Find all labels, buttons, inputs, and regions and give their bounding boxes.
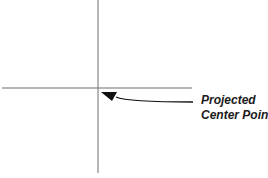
projected-center-point-label: Projected Center Point xyxy=(201,93,268,123)
diagram-canvas: Projected Center Point xyxy=(0,0,268,178)
label-line-2: Center Point xyxy=(201,108,268,123)
crosshair-diagram xyxy=(0,0,268,178)
label-line-1: Projected xyxy=(201,93,268,108)
arrow-icon xyxy=(101,92,193,102)
